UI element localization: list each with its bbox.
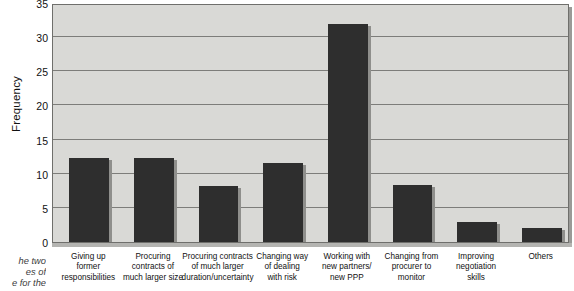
y-axis-tick-label: 15 bbox=[36, 136, 48, 146]
y-axis-tick-label: 10 bbox=[36, 170, 48, 180]
bar bbox=[393, 185, 433, 242]
figure-caption-line: es of bbox=[0, 267, 46, 278]
x-axis-tick-labels: Giving upformerresponsibilitiesProcuring… bbox=[52, 252, 569, 291]
plot-area bbox=[52, 4, 569, 243]
x-axis-base-shadow bbox=[52, 243, 572, 247]
x-axis-tick-label-line: Others bbox=[501, 252, 574, 262]
bar bbox=[263, 163, 303, 242]
x-axis-tick-label-line: negotiation bbox=[436, 262, 516, 272]
x-axis-tick-label-line: skills bbox=[436, 273, 516, 283]
figure-caption-line: e for the bbox=[0, 278, 46, 289]
y-axis-tick-label: 25 bbox=[36, 67, 48, 77]
y-axis-tick-label: 5 bbox=[42, 204, 48, 214]
bar bbox=[134, 158, 174, 242]
bar bbox=[328, 24, 368, 243]
bar bbox=[457, 222, 497, 242]
bar bbox=[522, 228, 562, 242]
y-axis-tick-label: 20 bbox=[36, 101, 48, 111]
bar-series bbox=[53, 5, 568, 242]
x-axis-tick-label: Others bbox=[501, 252, 574, 262]
y-axis-tick-labels: 05101520253035 bbox=[26, 0, 48, 243]
bar bbox=[199, 186, 239, 242]
bar bbox=[69, 158, 109, 242]
figure-caption: he twoes ofe for the bbox=[0, 256, 46, 290]
y-axis-tick-label: 0 bbox=[42, 238, 48, 248]
y-axis-tick-label: 35 bbox=[36, 0, 48, 9]
y-axis-tick-label: 30 bbox=[36, 33, 48, 43]
y-axis-title: Frequency bbox=[10, 54, 26, 154]
figure-caption-line: he two bbox=[0, 256, 46, 267]
